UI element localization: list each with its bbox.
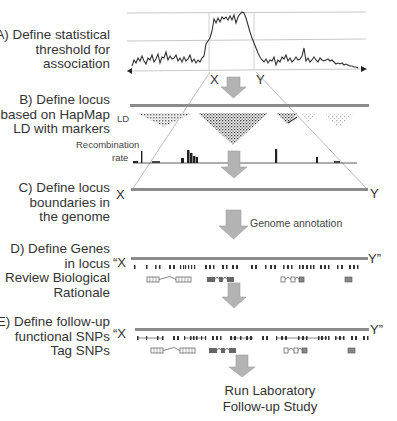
gene-models-e — [151, 348, 355, 354]
final-step-line-1: Run Laboratory — [205, 383, 335, 399]
zoom-guide-right — [256, 72, 368, 190]
down-arrow-c-d — [219, 210, 248, 239]
ld-heatmap — [137, 113, 355, 145]
final-step-label: Run Laboratory Follow-up Study — [205, 383, 335, 414]
final-step-line-2: Follow-up Study — [205, 399, 335, 415]
genome-bar-c — [131, 188, 368, 191]
snp-markers-d — [134, 265, 359, 269]
genome-bar-b — [130, 104, 369, 107]
genome-bar-d — [131, 257, 368, 260]
down-arrow-a-b — [221, 77, 246, 98]
gene-models-d — [147, 277, 352, 283]
genome-bar-e — [135, 328, 369, 331]
diagram-graphics — [0, 0, 397, 421]
down-arrow-b-c — [221, 151, 247, 178]
down-arrow-d-e — [222, 283, 246, 308]
down-arrow-e-final — [229, 355, 255, 377]
association-plot — [127, 12, 367, 74]
snp-markers-e — [137, 336, 369, 340]
zoom-guide-left — [132, 72, 210, 190]
recombination-plot — [133, 149, 357, 163]
